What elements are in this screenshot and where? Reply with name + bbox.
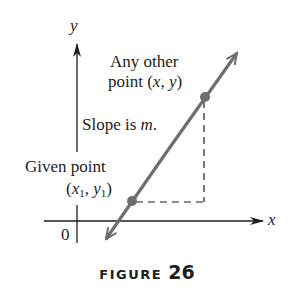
given-point-coords: (x1, y1)	[66, 179, 112, 203]
slope-suffix: .	[153, 115, 157, 134]
other-point-label-line1: Any other	[110, 52, 178, 71]
other-point-suffix: )	[176, 72, 182, 91]
other-point-sep: ,	[160, 72, 169, 91]
given-y: y	[93, 179, 101, 198]
figure-canvas: y x 0 Any other point (x, y) Slope is m.…	[0, 0, 294, 290]
slope-prefix: Slope is	[82, 115, 141, 134]
other-point-label-line2: point (x, y)	[108, 72, 182, 91]
given-sep: ,	[85, 179, 94, 198]
y-axis-label: y	[70, 16, 78, 35]
caption-number: 26	[168, 261, 194, 283]
figure-caption: FIGURE26	[0, 261, 294, 283]
caption-word: FIGURE	[99, 267, 162, 282]
origin-label: 0	[61, 225, 70, 244]
given-close-paren: )	[106, 179, 112, 198]
given-point-dot	[127, 196, 137, 206]
slope-label: Slope is m.	[82, 115, 157, 134]
given-point-label-line1: Given point	[25, 157, 106, 176]
other-point-dot	[200, 92, 210, 102]
point-slope-diagram	[0, 0, 294, 290]
slope-variable: m	[141, 115, 153, 134]
other-point-prefix: point (	[108, 72, 153, 91]
x-axis-label: x	[268, 210, 276, 229]
slope-line-down	[106, 150, 168, 239]
